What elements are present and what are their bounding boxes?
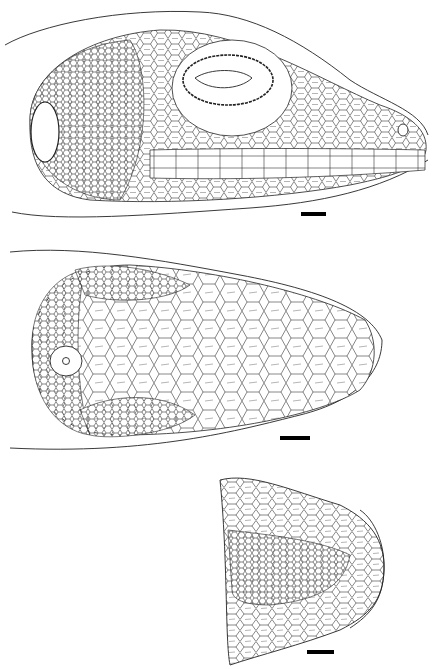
scale-bar	[280, 436, 310, 440]
dorsal-head-drawing	[0, 230, 443, 460]
lateral-head-panel	[0, 0, 443, 230]
ventral-chin-panel	[0, 460, 443, 669]
lateral-head-drawing	[0, 0, 443, 230]
nostril	[398, 124, 408, 136]
parietal-eye	[63, 358, 70, 365]
dorsal-head-panel	[0, 230, 443, 460]
scale-bar	[301, 212, 326, 216]
scale-bar	[307, 650, 334, 654]
ventral-chin-drawing	[0, 460, 443, 669]
ear-opening	[31, 102, 59, 162]
